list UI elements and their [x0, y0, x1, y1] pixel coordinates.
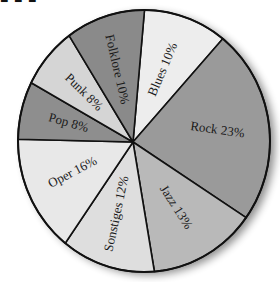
pie-slices — [18, 10, 270, 272]
pie-chart: Blues 10%Rock 23%Jazz 13%Sonstiges 12%Op… — [0, 0, 280, 282]
